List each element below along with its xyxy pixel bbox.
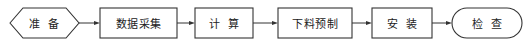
node-inspect-label: 检 查	[452, 8, 522, 38]
node-prepare-label: 准 备	[10, 8, 79, 38]
node-install-label: 安 装	[372, 8, 432, 38]
node-calculate-label: 计 算	[195, 8, 253, 38]
node-data-collection-label: 数据采集	[100, 8, 177, 38]
flowchart-shapes	[0, 0, 530, 45]
process-flowchart: 准 备 数据采集 计 算 下料预制 安 装 检 查	[0, 0, 530, 45]
node-prefabrication-label: 下料预制	[278, 8, 352, 38]
